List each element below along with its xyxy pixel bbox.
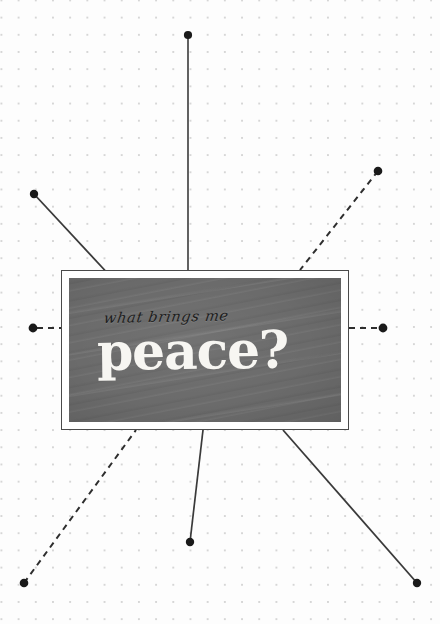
headline-card-frame: what brings me peace? bbox=[61, 270, 349, 430]
connector-upper-left-endpoint-dot bbox=[30, 190, 38, 198]
connector-upper-right-endpoint-dot bbox=[374, 167, 383, 176]
connector-lower-left-diagonal bbox=[24, 430, 136, 583]
connector-left-horizontal-endpoint-dot bbox=[29, 324, 38, 333]
headline-card-panel: what brings me peace? bbox=[69, 278, 341, 422]
headline-card-text-block: what brings me peace? bbox=[69, 278, 341, 422]
connector-bottom-vertical bbox=[190, 430, 203, 542]
connector-top-vertical-endpoint-dot bbox=[184, 31, 192, 39]
connector-lower-left-endpoint-dot bbox=[20, 579, 29, 588]
card-headline: peace? bbox=[97, 324, 341, 378]
connector-lower-right-endpoint-dot bbox=[413, 579, 421, 587]
connector-right-horizontal-endpoint-dot bbox=[379, 324, 388, 333]
connector-upper-right-diagonal bbox=[300, 171, 378, 270]
connector-upper-left-diagonal bbox=[34, 194, 112, 278]
connector-bottom-vertical-endpoint-dot bbox=[186, 538, 194, 546]
connector-lower-right-diagonal bbox=[283, 430, 417, 583]
poster-canvas: what brings me peace? bbox=[0, 0, 440, 624]
